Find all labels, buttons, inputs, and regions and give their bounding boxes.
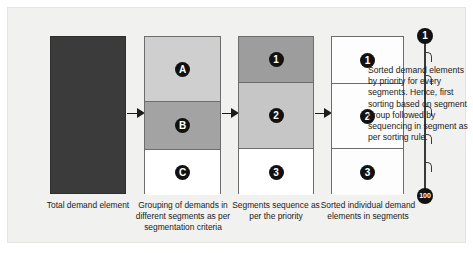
segment-cell-2: 2 [239, 83, 313, 149]
badge-1: 1 [269, 52, 284, 67]
badge-2: 2 [269, 108, 284, 123]
rail-tick-5 [424, 162, 432, 172]
grouping-cell-c: C [145, 150, 220, 195]
caption-grouping: Grouping of demands in different segment… [131, 200, 235, 233]
grouping-cell-a: A [145, 37, 220, 102]
diagram-figure: A B C 1 2 3 [0, 0, 473, 253]
badge-a: A [175, 62, 190, 77]
rail-marker-top: 1 [417, 28, 433, 44]
badge-b: B [175, 118, 190, 133]
segments-sequence-stack: 1 2 3 [238, 36, 314, 194]
segment-cell-3: 3 [239, 149, 313, 195]
flow-arrow-icon-1 [127, 108, 145, 119]
caption-sorted-elements: Sorted individual demand elements in seg… [319, 200, 417, 222]
rail-marker-bottom: 100 [417, 188, 433, 204]
explanatory-note: Sorted demand elements by priority for e… [368, 65, 472, 143]
caption-total-demand: Total demand element [34, 200, 142, 211]
rail-tick-1 [424, 52, 432, 62]
flow-arrow-icon-2 [222, 108, 239, 119]
badge-sorted-3: 3 [360, 165, 375, 180]
caption-segments-sequence: Segments sequence as per the priority [229, 200, 323, 222]
sorted-cell-3: 3 [332, 149, 403, 195]
badge-3: 3 [269, 165, 284, 180]
grouping-cell-b: B [145, 102, 220, 150]
flow-arrow-icon-3 [315, 108, 332, 119]
total-demand-block [50, 36, 126, 194]
segment-cell-1: 1 [239, 37, 313, 83]
diagram-plate: A B C 1 2 3 [7, 7, 466, 243]
grouping-stack: A B C [144, 36, 221, 194]
badge-c: C [175, 165, 190, 180]
